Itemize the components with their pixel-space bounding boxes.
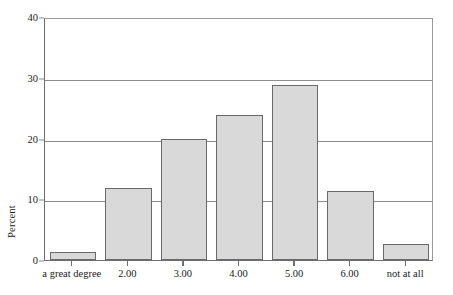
y-tick-label-10: 10 bbox=[0, 195, 44, 206]
x-tick-label: not at all bbox=[387, 268, 424, 280]
y-tick-label-30: 30 bbox=[0, 74, 44, 85]
x-tick-label: 5.00 bbox=[285, 268, 303, 280]
x-tick-label: 4.00 bbox=[229, 268, 247, 280]
x-tick-label: 6.00 bbox=[340, 268, 358, 280]
x-tick-label: a great degree bbox=[42, 268, 101, 280]
bar bbox=[216, 115, 262, 260]
x-tick-mark bbox=[238, 261, 239, 266]
y-tick-label-0: 0 bbox=[0, 256, 44, 267]
x-tick-mark bbox=[405, 261, 406, 266]
bar bbox=[383, 244, 429, 260]
x-axis-labels: a great degree2.003.004.005.006.00not at… bbox=[44, 268, 433, 290]
bars-layer bbox=[45, 19, 432, 260]
bar bbox=[327, 191, 373, 260]
y-tick-label-40: 40 bbox=[0, 13, 44, 24]
x-tick-mark bbox=[349, 261, 350, 266]
y-tick-label-20: 20 bbox=[0, 134, 44, 145]
x-tick-mark bbox=[127, 261, 128, 266]
bar bbox=[272, 85, 318, 260]
x-axis-ticks bbox=[44, 261, 433, 268]
y-axis: 40 30 20 10 0 bbox=[0, 0, 44, 295]
x-tick-mark bbox=[71, 261, 72, 266]
x-tick-label: 2.00 bbox=[118, 268, 136, 280]
x-tick-label: 3.00 bbox=[174, 268, 192, 280]
bar bbox=[105, 188, 151, 260]
x-tick-mark bbox=[293, 261, 294, 266]
bar bbox=[161, 139, 207, 261]
x-tick-mark bbox=[182, 261, 183, 266]
bar-chart: Percent 40 30 20 10 0 a great degree2.00… bbox=[0, 0, 453, 295]
plot-area bbox=[44, 18, 433, 261]
bar bbox=[50, 252, 96, 260]
